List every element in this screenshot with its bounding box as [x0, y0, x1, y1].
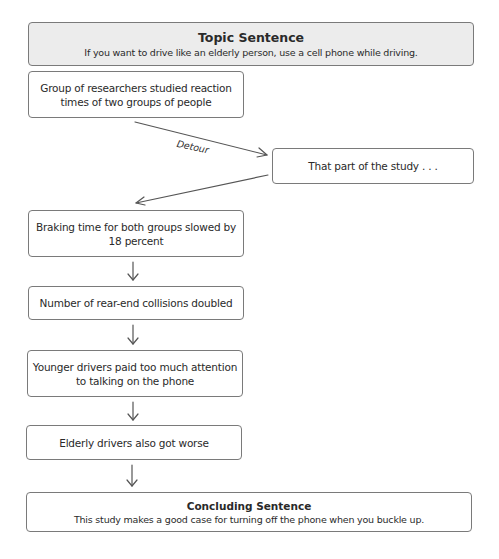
connector-arrows — [0, 0, 499, 559]
down-arrow-icon — [128, 262, 138, 280]
detour-arrow-icon — [135, 122, 267, 157]
return-arrow-icon — [136, 175, 268, 205]
down-arrow-icon — [127, 465, 137, 486]
down-arrow-icon — [128, 402, 138, 420]
down-arrow-icon — [128, 325, 138, 344]
